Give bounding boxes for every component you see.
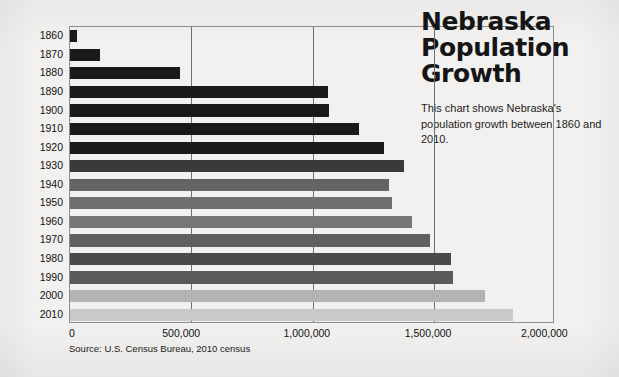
- x-axis-label-2000000: 2,000,000: [521, 327, 568, 339]
- bar-1860: [70, 30, 77, 42]
- y-axis-label-1900: 1900: [0, 104, 63, 116]
- bar-1970: [70, 234, 430, 246]
- bar-1910: [70, 123, 359, 135]
- y-axis-label-1990: 1990: [0, 271, 63, 283]
- source-note: Source: U.S. Census Bureau, 2010 census: [69, 343, 250, 354]
- y-axis: 1860187018801890190019101920193019401950…: [0, 26, 63, 323]
- y-axis-label-2010: 2010: [0, 308, 63, 320]
- bar-2010: [70, 309, 513, 321]
- x-axis-label-500000: 500,000: [162, 327, 200, 339]
- y-axis-label-1980: 1980: [0, 252, 63, 264]
- bar-fill: [70, 30, 77, 42]
- y-axis-label-1970: 1970: [0, 233, 63, 245]
- bar-1950: [70, 197, 392, 209]
- bar-fill: [70, 160, 404, 172]
- bar-1980: [70, 253, 451, 265]
- bar-1880: [70, 67, 180, 79]
- y-axis-label-1860: 1860: [0, 29, 63, 41]
- bar-1930: [70, 160, 404, 172]
- bar-fill: [70, 123, 359, 135]
- y-axis-label-1940: 1940: [0, 178, 63, 190]
- y-axis-label-1930: 1930: [0, 159, 63, 171]
- bar-fill: [70, 309, 513, 321]
- bar-1920: [70, 142, 384, 154]
- bar-fill: [70, 67, 180, 79]
- bar-1870: [70, 49, 100, 61]
- bar-fill: [70, 234, 430, 246]
- bar-fill: [70, 142, 384, 154]
- bar-1990: [70, 271, 453, 283]
- x-axis: 0500,0001,000,0001,500,0002,000,000: [0, 327, 619, 343]
- bar-fill: [70, 179, 389, 191]
- y-axis-label-1870: 1870: [0, 48, 63, 60]
- bar-fill: [70, 253, 451, 265]
- bar-series: [70, 27, 553, 322]
- bar-fill: [70, 197, 392, 209]
- y-axis-label-1910: 1910: [0, 122, 63, 134]
- bar-fill: [70, 104, 329, 116]
- chart-page: 1860187018801890190019101920193019401950…: [0, 0, 619, 377]
- y-axis-label-2000: 2000: [0, 289, 63, 301]
- bar-fill: [70, 216, 412, 228]
- bar-2000: [70, 290, 485, 302]
- y-axis-label-1920: 1920: [0, 141, 63, 153]
- bar-fill: [70, 271, 453, 283]
- x-axis-label-1500000: 1,500,000: [405, 327, 452, 339]
- y-axis-label-1890: 1890: [0, 85, 63, 97]
- bar-1960: [70, 216, 412, 228]
- y-axis-label-1960: 1960: [0, 215, 63, 227]
- y-axis-label-1880: 1880: [0, 66, 63, 78]
- bar-1940: [70, 179, 389, 191]
- plot-wrapper: [0, 0, 619, 377]
- plot-area: [69, 26, 554, 323]
- bar-1890: [70, 86, 328, 98]
- y-axis-label-1950: 1950: [0, 196, 63, 208]
- x-axis-label-1000000: 1,000,000: [284, 327, 331, 339]
- bar-fill: [70, 86, 328, 98]
- bar-fill: [70, 290, 485, 302]
- bar-fill: [70, 49, 100, 61]
- x-axis-label-0: 0: [69, 327, 75, 339]
- bar-1900: [70, 104, 329, 116]
